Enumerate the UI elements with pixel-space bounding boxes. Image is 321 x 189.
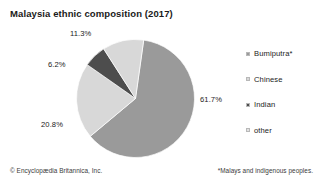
pie-chart-svg bbox=[76, 39, 195, 158]
legend: Bumiputra* Chinese Indian other bbox=[246, 41, 318, 143]
slice-label-indian: 6.2% bbox=[48, 60, 66, 69]
legend-item-bumiputra[interactable]: Bumiputra* bbox=[246, 41, 318, 67]
legend-label-bumiputra: Bumiputra* bbox=[254, 49, 293, 58]
legend-label-other: other bbox=[254, 126, 272, 135]
footnote: *Malays and indigenous peoples. bbox=[218, 167, 313, 174]
slice-label-chinese: 20.8% bbox=[41, 120, 63, 129]
pie-chart bbox=[76, 39, 195, 158]
legend-swatch-bumiputra bbox=[246, 52, 250, 56]
legend-swatch-chinese bbox=[246, 77, 250, 81]
slice-label-other: 11.3% bbox=[70, 29, 91, 38]
legend-item-indian[interactable]: Indian bbox=[246, 92, 318, 118]
legend-item-chinese[interactable]: Chinese bbox=[246, 67, 318, 93]
page-title: Malaysia ethnic composition (2017) bbox=[10, 8, 173, 19]
copyright-credit: © Encyclopædia Britannica, Inc. bbox=[10, 167, 102, 174]
legend-item-other[interactable]: other bbox=[246, 118, 318, 144]
legend-label-indian: Indian bbox=[254, 100, 275, 109]
chart-canvas: Malaysia ethnic composition (2017) 11.3%… bbox=[0, 0, 321, 189]
legend-swatch-indian bbox=[246, 103, 250, 107]
slice-label-bumiputra: 61.7% bbox=[200, 95, 222, 104]
legend-swatch-other bbox=[246, 128, 250, 132]
legend-label-chinese: Chinese bbox=[254, 75, 283, 84]
